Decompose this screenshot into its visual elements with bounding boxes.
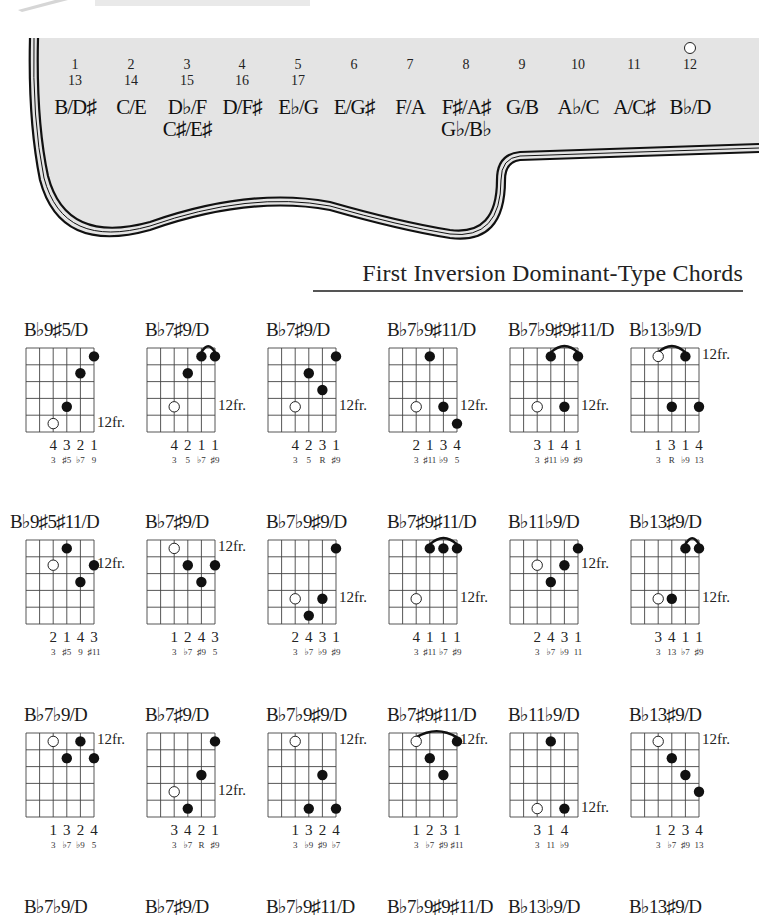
- interval-label: 11: [571, 647, 585, 657]
- finger-number: 4: [46, 438, 60, 453]
- fretboard-grid: [625, 342, 705, 438]
- interval-label: ♭9: [436, 455, 450, 465]
- chord-diagram: B♭11♭9/D12fr.314311♭9: [510, 703, 631, 873]
- chord-diagram: B♭13♯9/D12fr.12343♭7♯913: [631, 703, 752, 873]
- finger-dot-icon: [89, 351, 99, 361]
- chord-diagram: B♭7♭9♯9/D12fr.24313♭7♭9♯9: [268, 510, 389, 680]
- interval-label: 5: [87, 840, 101, 850]
- interval-label: 3: [46, 455, 60, 465]
- interval-label: 3: [288, 647, 302, 657]
- chord-name: B♭7♭9/D: [24, 895, 87, 918]
- finger-dot-icon: [425, 543, 435, 553]
- chord-diagram: B♭7♭9♯9/D12fr.13243♭9♯9♭7: [268, 703, 389, 873]
- fret-number-octave: 14: [111, 73, 151, 89]
- interval-label: ♯9: [450, 647, 464, 657]
- finger-number: 4: [73, 630, 87, 645]
- interval-label: 3: [651, 840, 665, 850]
- fret-number: 4: [222, 57, 262, 73]
- interval-label: R: [194, 840, 208, 850]
- fretboard-grid: [625, 727, 705, 823]
- chord-diagram: B♭9♯5♯11/D12fr.21433♯59♯11: [26, 510, 147, 680]
- fret-position-label: 12fr.: [460, 589, 488, 606]
- chord-name: B♭9♯5/D: [24, 318, 88, 341]
- fret-position-label: 12fr.: [339, 397, 367, 414]
- fretboard-grid: [383, 534, 463, 630]
- interval-label: ♯9: [194, 647, 208, 657]
- finger-number: 1: [208, 438, 222, 453]
- chord-name: B♭11♭9/D: [508, 510, 579, 533]
- chord-diagram: B♭7♭9/D12fr.13243♭7♭95: [26, 703, 147, 873]
- finger-dot-icon: [304, 610, 314, 620]
- chord-name: B♭9♯5♯11/D: [10, 510, 99, 533]
- fret-position-label: 12fr.: [339, 589, 367, 606]
- interval-label: ♯5: [60, 647, 74, 657]
- finger-number: 2: [423, 823, 437, 838]
- fret-position-label: 12fr.: [97, 555, 125, 572]
- finger-dot-icon: [89, 753, 99, 763]
- chord-diagram: B♭13♯9/D12fr.3411313♭7♯9: [631, 510, 752, 680]
- finger-number: 1: [436, 630, 450, 645]
- interval-label: 13: [692, 455, 706, 465]
- interval-label: 5: [181, 455, 195, 465]
- finger-number: 1: [450, 630, 464, 645]
- finger-number: 1: [423, 630, 437, 645]
- interval-label: 5: [450, 455, 464, 465]
- chord-diagram: B♭7♯9/D12fr.421135♭7♯9: [147, 318, 268, 488]
- chord-diagram: B♭13♯9/D: [631, 895, 752, 919]
- finger-dot-icon: [210, 560, 220, 570]
- root-open-dot-icon: [290, 736, 300, 746]
- finger-number: 1: [544, 823, 558, 838]
- chord-name: B♭13♯9/D: [629, 895, 701, 918]
- fret-position-label: 12fr.: [218, 782, 246, 799]
- fret-number-octave: 16: [222, 73, 262, 89]
- finger-number: 4: [288, 438, 302, 453]
- fret-number: 12: [670, 57, 710, 73]
- barre-slur-icon: [685, 538, 699, 544]
- finger-number: 3: [302, 823, 316, 838]
- finger-number: 3: [651, 630, 665, 645]
- finger-dot-icon: [210, 351, 220, 361]
- finger-dot-icon: [62, 753, 72, 763]
- fret-position-label: 12fr.: [460, 731, 488, 748]
- interval-label: ♭9: [557, 840, 571, 850]
- finger-number: 3: [315, 630, 329, 645]
- finger-number: 1: [450, 823, 464, 838]
- fret-position-label: 12fr.: [218, 538, 246, 555]
- finger-number: 4: [167, 438, 181, 453]
- fretboard-grid: [504, 534, 584, 630]
- root-open-dot-icon: [411, 402, 421, 412]
- interval-label: ♭9: [302, 840, 316, 850]
- root-open-dot-icon: [411, 594, 421, 604]
- interval-label: ♭7: [181, 647, 195, 657]
- interval-label: ♭9: [557, 647, 571, 657]
- barre-slur-icon: [416, 731, 457, 737]
- chord-diagram: B♭7♯9♯11/D12fr.12313♭7♯9♯11: [389, 703, 510, 873]
- finger-number: 1: [571, 438, 585, 453]
- fret-number: 7: [390, 57, 430, 73]
- finger-number: 1: [288, 823, 302, 838]
- interval-label: ♭7: [678, 647, 692, 657]
- chord-diagram: B♭9♯5/D12fr.43213♯5♭79: [26, 318, 147, 488]
- fret-number: 8: [446, 57, 486, 73]
- chord-diagram: B♭7♯9♯11/D12fr.41113♯11♭7♯9: [389, 510, 510, 680]
- finger-number: 2: [288, 630, 302, 645]
- root-open-dot-icon: [532, 560, 542, 570]
- chord-name: B♭7♯9/D: [145, 703, 209, 726]
- finger-dot-icon: [331, 803, 341, 813]
- finger-number: 1: [208, 823, 222, 838]
- chord-name: B♭7♭9♯9♯11/D: [508, 318, 614, 341]
- interval-label: R: [315, 455, 329, 465]
- root-open-dot-icon: [532, 402, 542, 412]
- finger-dot-icon: [304, 803, 314, 813]
- finger-dot-icon: [694, 543, 704, 553]
- finger-number: 4: [329, 823, 343, 838]
- finger-number: 2: [181, 630, 195, 645]
- finger-dot-icon: [75, 368, 85, 378]
- interval-label: 3: [46, 647, 60, 657]
- finger-dot-icon: [667, 753, 677, 763]
- chord-diagram: B♭7♭9♯9♯11/D: [389, 895, 510, 919]
- finger-dot-icon: [680, 770, 690, 780]
- finger-number: 4: [557, 438, 571, 453]
- finger-number: 3: [665, 438, 679, 453]
- finger-number: 4: [194, 630, 208, 645]
